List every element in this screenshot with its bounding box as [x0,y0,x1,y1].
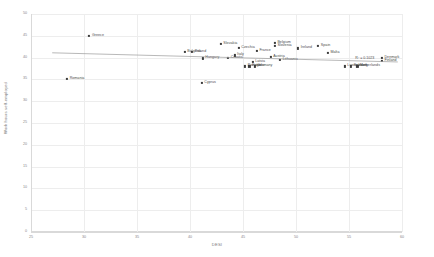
data-point-label: Netherlands [360,65,380,69]
data-point [220,43,222,45]
data-point-label: Latvia [255,60,265,64]
data-point [274,45,276,47]
data-point-label: Greece [92,34,104,38]
x-tick-label: 50 [286,236,306,240]
y-tick-label: 50 [7,12,27,16]
data-point-label: Italy [237,54,244,58]
x-axis-title: DESI [0,242,434,247]
data-point [201,82,203,84]
y-axis-title: Work hours self-employed [3,82,8,134]
gridline-horizontal [31,188,402,189]
data-point-label: France [259,49,271,53]
data-point [88,35,90,37]
data-point [184,51,186,53]
y-tick-label: 10 [7,186,27,190]
data-point [274,42,276,44]
r-squared-annotation: R² = 0.1023 [355,58,374,62]
data-point [248,65,250,67]
data-point [269,56,271,58]
gridline-horizontal [31,167,402,168]
data-point [244,65,246,67]
gridline-vertical [402,14,403,232]
data-point [254,65,256,67]
y-tick-label: 15 [7,165,27,169]
chart-overlay: 051015202530354045502530354045505560Gree… [0,0,434,257]
gridline-horizontal [31,36,402,37]
data-point [202,57,204,59]
x-tick-label: 25 [21,236,41,240]
y-tick-label: 35 [7,77,27,81]
gridline-horizontal [31,210,402,211]
x-tick-label: 35 [127,236,147,240]
y-tick-label: 0 [7,230,27,234]
data-point-label: Cyprus [204,81,216,85]
data-point [233,54,235,56]
data-point-label: Finland [384,59,396,63]
data-point-label: Slovenia [277,44,291,48]
gridline-horizontal [31,101,402,102]
x-tick-label: 55 [339,236,359,240]
gridline-vertical [137,14,138,232]
data-point-label: Germany [257,65,272,69]
gridline-vertical [84,14,85,232]
y-tick-label: 40 [7,56,27,60]
gridline-horizontal [31,123,402,124]
x-axis-line [31,232,402,233]
data-point-label: Spain [321,44,330,48]
x-tick-label: 40 [180,236,200,240]
data-point [381,60,383,62]
data-point [356,65,358,67]
data-point-label: Lithuania [283,58,298,62]
data-point-label: Malta [330,51,339,55]
data-point-label: Czechia [241,46,254,50]
data-point-label: Ireland [301,47,312,51]
gridline-horizontal [31,14,402,15]
x-tick-label: 30 [74,236,94,240]
x-tick-label: 45 [233,236,253,240]
y-tick-label: 45 [7,34,27,38]
gridline-horizontal [31,145,402,146]
data-point [191,51,193,53]
data-point [297,47,299,49]
data-point [344,65,346,67]
y-tick-label: 25 [7,121,27,125]
data-point [251,61,253,63]
data-point-label: Romania [70,77,85,81]
data-point [279,59,281,61]
x-tick-label: 60 [392,236,412,240]
y-axis-line [31,14,32,232]
data-point [66,78,68,80]
scatter-chart-figure: 051015202530354045502530354045505560Gree… [0,0,434,257]
data-point-label: Poland [195,50,207,54]
y-tick-label: 20 [7,143,27,147]
data-point [327,52,329,54]
data-point-label: Slovakia [223,42,237,46]
data-point [238,47,240,49]
gridline-vertical [349,14,350,232]
data-point [227,57,229,59]
data-point [350,65,352,67]
gridline-horizontal [31,79,402,80]
data-point [256,50,258,52]
data-point-label: Hungary [205,57,219,61]
y-tick-label: 5 [7,208,27,212]
y-tick-label: 30 [7,99,27,103]
data-point [317,45,319,47]
gridline-vertical [190,14,191,232]
